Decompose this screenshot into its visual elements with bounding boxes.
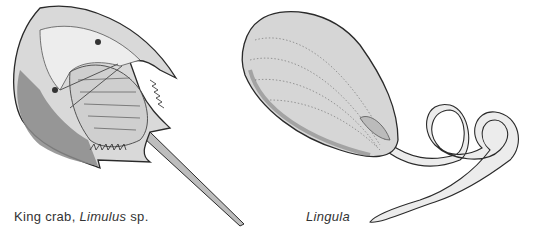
lingula-caption: Lingula (306, 209, 350, 224)
separator: , (72, 209, 76, 224)
genus-name: Lingula (306, 209, 350, 224)
lingula-illustration (220, 0, 533, 252)
common-name: King crab (14, 209, 72, 224)
king-crab-caption: King crab, Limulus sp. (14, 209, 149, 224)
species-suffix: sp. (130, 209, 148, 224)
genus-name: Limulus (79, 209, 126, 224)
